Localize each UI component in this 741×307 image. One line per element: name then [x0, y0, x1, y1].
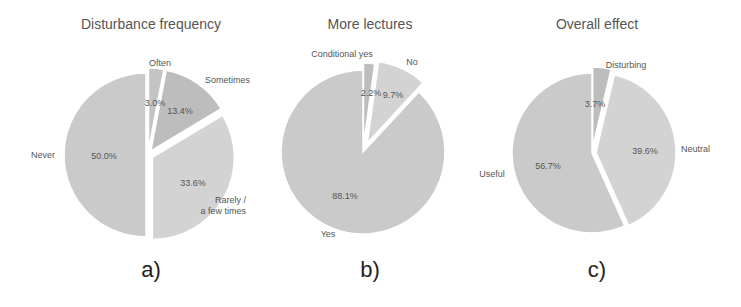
- slice-percentage: 50.0%: [91, 151, 117, 161]
- slice-percentage: 88.1%: [332, 191, 358, 201]
- slice-label: Often: [149, 58, 171, 68]
- slice-label: Sometimes: [205, 75, 251, 85]
- slice-percentage: 13.4%: [167, 106, 193, 116]
- slice-percentage: 2.2%: [361, 88, 382, 98]
- slice-label: Conditional yes: [311, 49, 373, 59]
- slice-percentage: 56.7%: [535, 161, 561, 171]
- slice-percentage: 39.6%: [632, 146, 658, 156]
- slice-label: No: [406, 57, 418, 67]
- slice-percentage: 9.7%: [383, 90, 404, 100]
- pie-charts: Often3.0%Sometimes13.4%Rarely /a few tim…: [0, 0, 741, 307]
- slice-label: Neutral: [681, 144, 710, 154]
- slice-percentage: 3.0%: [145, 98, 166, 108]
- slice-label: Never: [31, 150, 55, 160]
- slice-label: Disturbing: [606, 60, 647, 70]
- slice-percentage: 3.7%: [585, 99, 606, 109]
- slice-label: Yes: [321, 229, 336, 239]
- slice-percentage: 33.6%: [180, 178, 206, 188]
- slice-label: Useful: [479, 169, 505, 179]
